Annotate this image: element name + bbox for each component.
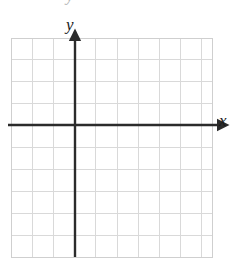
coordinate-grid-figure: y y x: [0, 0, 234, 268]
y-axis-label: y: [66, 16, 74, 33]
axis-lines: [8, 40, 218, 257]
x-axis-label: x: [219, 112, 227, 129]
coordinate-plane-svg: [0, 0, 234, 268]
grid-lines: [11, 38, 212, 257]
